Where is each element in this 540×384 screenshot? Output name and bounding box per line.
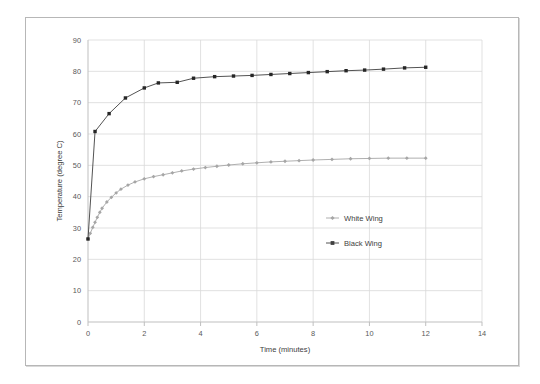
- series-marker: [126, 183, 130, 187]
- x-tick-label: 10: [365, 329, 373, 338]
- legend-entry-white-wing: White Wing: [326, 214, 383, 223]
- series-marker: [382, 67, 385, 70]
- y-tick-label: 70: [73, 98, 81, 107]
- series-marker: [88, 231, 92, 235]
- series-marker: [250, 74, 253, 77]
- series-marker: [311, 158, 315, 162]
- chart-tick-labels: 010203040506070809002468101214: [73, 36, 486, 338]
- y-tick-label: 40: [73, 192, 81, 201]
- series-marker: [192, 77, 195, 80]
- series-marker: [93, 130, 96, 133]
- x-tick-label: 12: [422, 329, 430, 338]
- x-tick-label: 2: [142, 329, 146, 338]
- x-tick-label: 8: [311, 329, 315, 338]
- x-tick-label: 4: [199, 329, 203, 338]
- legend-entry-black-wing: Black Wing: [326, 239, 382, 248]
- x-tick-label: 0: [86, 329, 90, 338]
- series-marker: [157, 81, 160, 84]
- legend-marker-square-icon: [331, 241, 335, 245]
- series-marker: [368, 157, 372, 161]
- y-axis-title: Temperature (degree C): [55, 140, 64, 222]
- series-marker: [405, 156, 409, 160]
- series-marker: [152, 175, 156, 179]
- screenshot-root: 010203040506070809002468101214 White Win…: [0, 0, 540, 384]
- y-tick-label: 60: [73, 130, 81, 139]
- series-marker: [403, 66, 406, 69]
- x-tick-label: 6: [255, 329, 259, 338]
- series-marker: [297, 159, 301, 163]
- series-marker: [192, 167, 196, 171]
- series-marker: [386, 156, 390, 160]
- series-marker: [344, 69, 347, 72]
- series-marker: [283, 159, 287, 163]
- series-marker: [180, 169, 184, 173]
- series-marker: [124, 96, 127, 99]
- chart-legend: White WingBlack Wing: [326, 214, 383, 248]
- series-marker: [213, 75, 216, 78]
- series-marker: [330, 157, 334, 161]
- series-marker: [326, 70, 329, 73]
- y-tick-label: 80: [73, 67, 81, 76]
- legend-label: Black Wing: [344, 239, 382, 248]
- chart-axes: [88, 40, 482, 326]
- y-tick-label: 50: [73, 161, 81, 170]
- series-marker: [424, 156, 428, 160]
- series-marker: [171, 171, 175, 175]
- series-marker: [203, 166, 207, 170]
- series-marker: [143, 86, 146, 89]
- series-marker: [176, 81, 179, 84]
- series-marker: [86, 237, 89, 240]
- temperature-line-chart: 010203040506070809002468101214 White Win…: [0, 0, 540, 384]
- legend-label: White Wing: [344, 214, 383, 223]
- series-marker: [307, 71, 310, 74]
- series-marker: [269, 73, 272, 76]
- series-marker: [349, 157, 353, 161]
- x-tick-label: 14: [478, 329, 486, 338]
- y-tick-label: 0: [77, 318, 81, 327]
- series-marker: [95, 215, 99, 219]
- y-tick-label: 10: [73, 286, 81, 295]
- series-marker: [288, 72, 291, 75]
- y-tick-label: 90: [73, 36, 81, 45]
- series-marker: [93, 220, 97, 224]
- series-marker: [255, 161, 259, 165]
- chart-gridlines: [88, 40, 482, 322]
- series-marker: [363, 68, 366, 71]
- series-marker: [142, 177, 146, 181]
- x-axis-title: Time (minutes): [260, 345, 311, 354]
- legend-marker-diamond-icon: [330, 216, 334, 220]
- series-marker: [424, 66, 427, 69]
- series-marker: [133, 180, 137, 184]
- series-marker: [91, 225, 95, 229]
- y-tick-label: 30: [73, 224, 81, 233]
- series-marker: [232, 74, 235, 77]
- series-marker: [98, 210, 102, 214]
- series-marker: [161, 173, 165, 177]
- y-tick-label: 20: [73, 255, 81, 264]
- series-marker: [269, 160, 273, 164]
- series-marker: [227, 163, 231, 167]
- series-marker: [107, 112, 110, 115]
